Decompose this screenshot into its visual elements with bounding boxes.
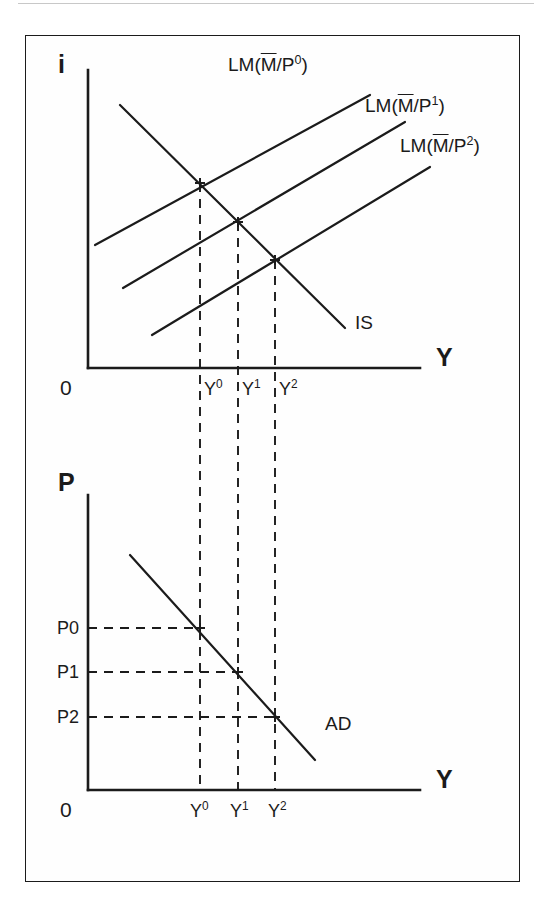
figure-root: i Y 0 LM(M/P0) LM(M/P1) LM(M/P2) IS Y0 Y…	[0, 0, 545, 907]
bottom-tick-p2: P2	[57, 708, 79, 726]
lm-label-p1-money: M	[398, 95, 414, 116]
lm-label-p0: LM(M/P0)	[228, 55, 308, 74]
bottom-tick-y1-base: Y	[230, 801, 242, 821]
bottom-tick-p0: P0	[57, 619, 79, 637]
lm-curve-p1	[123, 122, 405, 288]
lm-label-p2-sep: /P	[449, 135, 467, 156]
bottom-tick-y1-exponent: 1	[242, 799, 249, 813]
bottom-tick-y0: Y0	[190, 802, 209, 820]
top-x-axis-label: Y	[436, 345, 453, 370]
top-y-axis-label: i	[58, 52, 65, 77]
lm-label-p0-suffix: )	[302, 54, 308, 75]
bottom-tick-y0-base: Y	[190, 801, 202, 821]
lm-label-p2-suffix: )	[474, 135, 480, 156]
bottom-tick-y2-base: Y	[268, 801, 280, 821]
lm-label-p2-exponent: 2	[467, 134, 474, 148]
is-curve	[120, 105, 345, 328]
bottom-origin-label: 0	[60, 799, 72, 820]
top-tick-y0-base: Y	[204, 379, 216, 399]
lm-label-p1-suffix: )	[439, 95, 445, 116]
bottom-tick-y0-exponent: 0	[202, 799, 209, 813]
lm-label-p0-exponent: 0	[295, 53, 302, 67]
lm-label-p0-prefix: LM(	[228, 54, 261, 75]
lm-label-p2: LM(M/P2)	[400, 136, 480, 155]
top-tick-y2-exponent: 2	[291, 377, 298, 391]
lm-label-p0-sep: /P	[277, 54, 295, 75]
ad-curve	[130, 555, 315, 760]
lm-label-p2-money: M	[433, 135, 449, 156]
top-tick-y1: Y1	[242, 380, 261, 398]
is-curve-label: IS	[355, 313, 373, 332]
top-tick-y2-base: Y	[279, 379, 291, 399]
top-origin-label: 0	[60, 377, 72, 398]
bottom-tick-p1: P1	[57, 663, 79, 681]
bottom-tick-y2-exponent: 2	[280, 799, 287, 813]
top-tick-y1-exponent: 1	[254, 377, 261, 391]
lm-label-p1: LM(M/P1)	[365, 96, 445, 115]
top-tick-y0: Y0	[204, 380, 223, 398]
bottom-panel-group	[88, 495, 420, 790]
ad-curve-label: AD	[325, 714, 351, 733]
top-tick-y1-base: Y	[242, 379, 254, 399]
bottom-y-axis-label: P	[58, 470, 75, 495]
bottom-tick-y1: Y1	[230, 802, 249, 820]
top-tick-y2: Y2	[279, 380, 298, 398]
lm-label-p1-prefix: LM(	[365, 95, 398, 116]
connector-dashed-lines	[200, 183, 275, 790]
bottom-x-axis-label: Y	[436, 767, 453, 792]
lm-label-p2-prefix: LM(	[400, 135, 433, 156]
lm-label-p1-exponent: 1	[432, 94, 439, 108]
lm-label-p0-money: M	[261, 54, 277, 75]
top-tick-y0-exponent: 0	[216, 377, 223, 391]
lm-label-p1-sep: /P	[414, 95, 432, 116]
bottom-tick-y2: Y2	[268, 802, 287, 820]
